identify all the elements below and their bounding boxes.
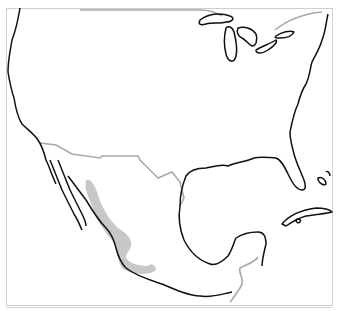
coastlines <box>8 8 332 297</box>
canada-us-border-east <box>275 12 322 30</box>
gulf-coast <box>179 206 266 266</box>
lake-ontario <box>275 31 294 38</box>
small-island <box>296 219 301 223</box>
map-canvas <box>0 0 338 311</box>
baja-california <box>50 160 82 230</box>
bahamas <box>318 177 326 184</box>
lake-erie <box>256 40 277 53</box>
canada-us-border-top <box>80 10 222 16</box>
cuba <box>282 208 332 226</box>
florida <box>276 132 305 190</box>
us-mexico-border <box>40 143 184 206</box>
lake-michigan <box>225 27 237 61</box>
pacific-coast-us <box>8 8 56 184</box>
guatemala-border <box>230 257 258 302</box>
gulf-of-california <box>58 160 86 226</box>
atlantic-coast <box>290 14 328 132</box>
lake-superior <box>199 14 233 25</box>
lake-huron <box>237 27 257 46</box>
bahamas-2 <box>326 171 330 176</box>
gulf-coast-us <box>180 157 276 206</box>
borders <box>40 10 322 302</box>
